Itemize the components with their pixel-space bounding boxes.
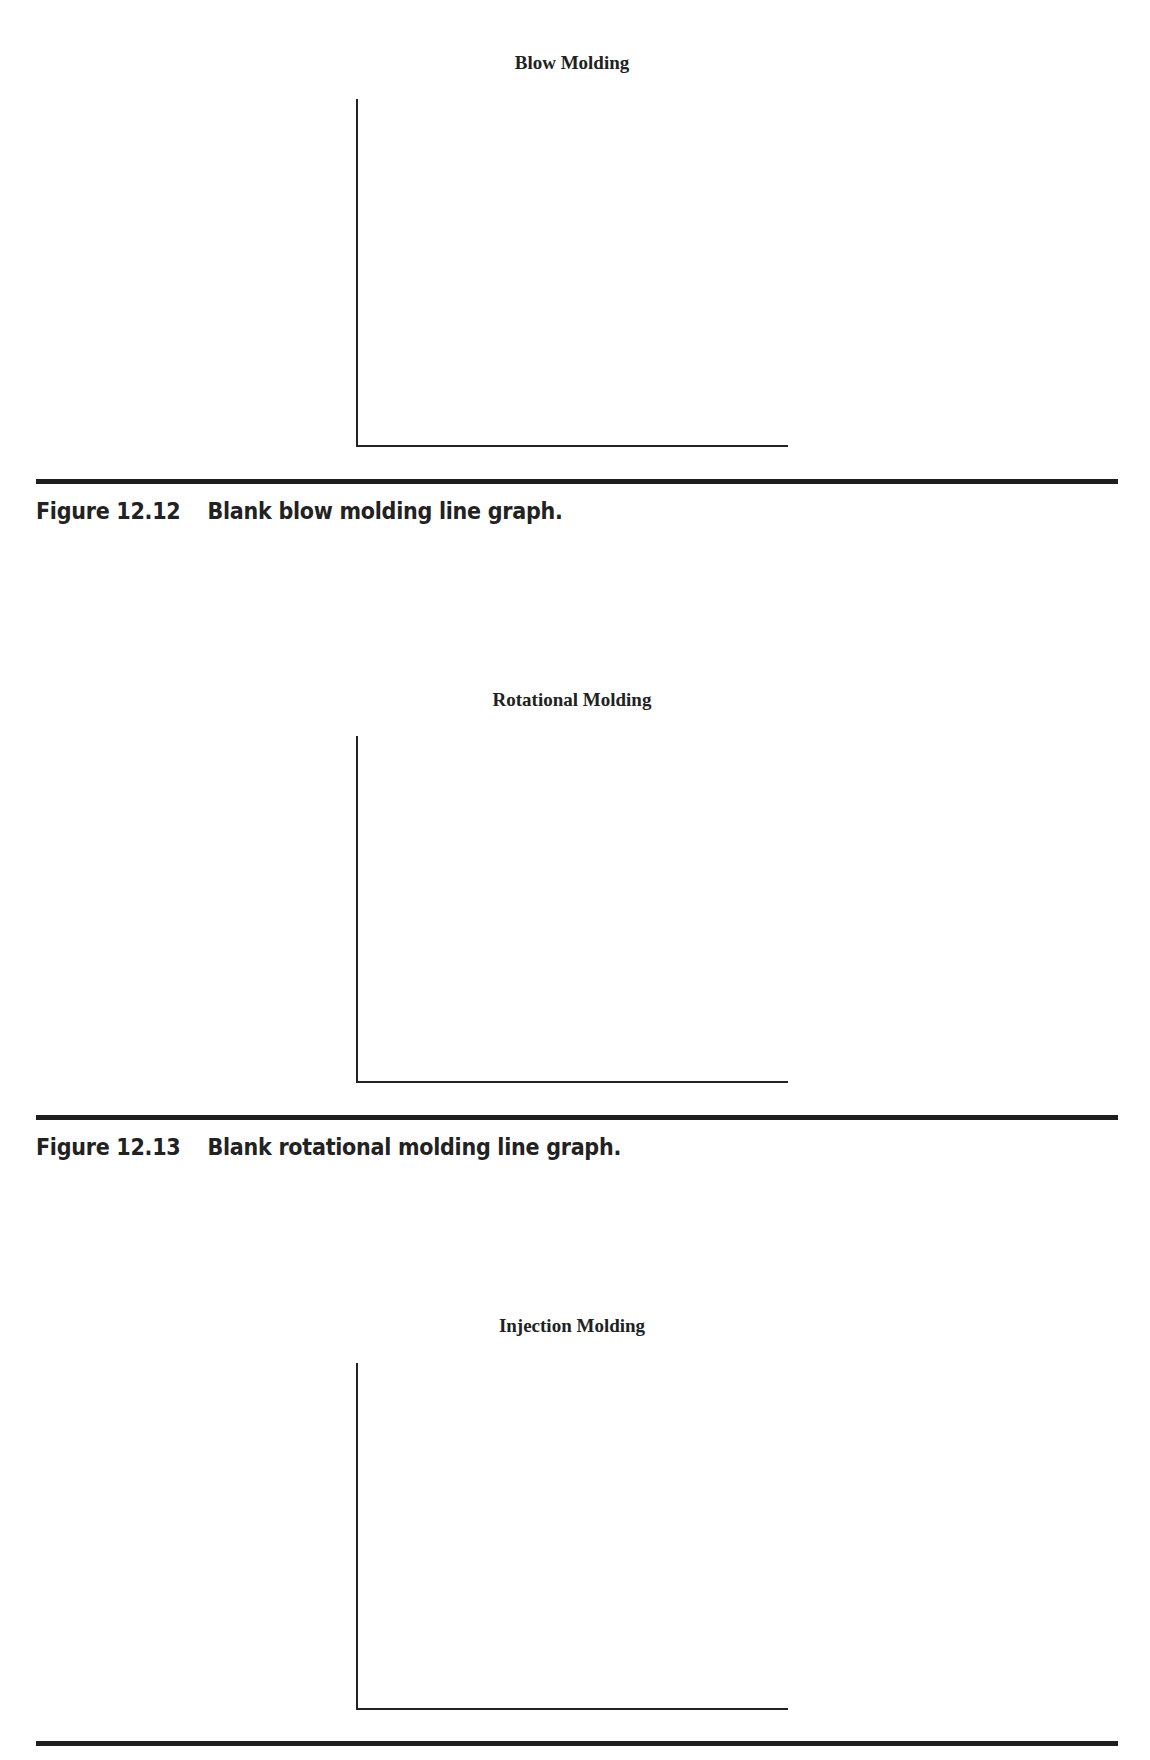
caption-text: Blank rotational molding line graph. [207, 1134, 620, 1160]
x-axis [356, 445, 788, 447]
figure-rule [36, 1741, 1118, 1746]
y-axis [356, 1363, 358, 1710]
chart-title: Rotational Molding [357, 689, 787, 711]
x-axis [356, 1708, 788, 1710]
y-axis [356, 736, 358, 1083]
figure-caption: Figure 12.13Blank rotational molding lin… [36, 1134, 621, 1160]
y-axis [356, 99, 358, 447]
caption-text: Blank blow molding line graph. [207, 498, 562, 524]
figure-rule [36, 479, 1118, 484]
caption-number: Figure 12.13 [36, 1134, 180, 1160]
chart-title: Blow Molding [357, 52, 787, 74]
chart-title: Injection Molding [357, 1315, 787, 1337]
figure-rule [36, 1115, 1118, 1120]
x-axis [356, 1081, 788, 1083]
figure-caption: Figure 12.12Blank blow molding line grap… [36, 498, 563, 524]
caption-number: Figure 12.12 [36, 498, 180, 524]
